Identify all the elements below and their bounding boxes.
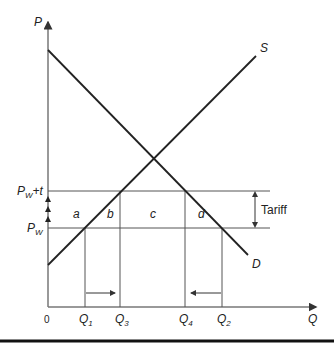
area-b-label: b xyxy=(107,207,114,221)
tariff-label: Tariff xyxy=(261,203,287,217)
area-a-label: a xyxy=(73,207,80,221)
q3-label: Q3 xyxy=(115,312,129,328)
q4-label: Q4 xyxy=(179,312,193,328)
origin-label: 0 xyxy=(44,314,50,325)
area-c-label: c xyxy=(150,207,156,221)
demand-label: D xyxy=(252,257,261,271)
q2-label: Q2 xyxy=(217,312,231,328)
area-d-label: d xyxy=(198,207,205,221)
x-axis-label: Q xyxy=(308,312,317,326)
demand-curve xyxy=(48,50,248,255)
supply-curve xyxy=(48,56,256,265)
pw-plus-t-label: PW+t xyxy=(17,184,44,200)
y-axis-tick-arrows xyxy=(45,196,51,222)
supply-label: S xyxy=(260,41,268,55)
tariff-diagram: Tariff P Q 0 S D PW+t PW a b c d Q1 Q3 Q… xyxy=(0,0,334,347)
q1-label: Q1 xyxy=(79,312,93,328)
y-axis-label: P xyxy=(34,15,42,29)
pw-label: PW xyxy=(27,221,44,237)
